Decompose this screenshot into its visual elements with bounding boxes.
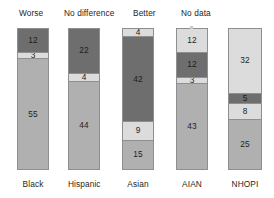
plot-area: 12355Black22444Hispanic442915Asian121234… bbox=[0, 0, 274, 198]
bar-group-hispanic: 22444Hispanic bbox=[68, 28, 100, 170]
stacked-bar[interactable]: 12355 bbox=[17, 28, 49, 170]
segment-value-label: 12 bbox=[28, 36, 37, 45]
stacked-bar-chart: WorseNo differenceBetterNo data 12355Bla… bbox=[0, 0, 274, 198]
bar-segment[interactable]: 4 bbox=[68, 73, 100, 81]
bar-group-aian: 1212343AIAN bbox=[176, 28, 208, 170]
bar-segment[interactable]: 9 bbox=[122, 121, 154, 139]
stacked-bar[interactable]: 1212343 bbox=[176, 28, 208, 170]
segment-value-label: 12 bbox=[187, 60, 196, 69]
segment-value-label: 42 bbox=[133, 75, 142, 84]
bar-segment[interactable]: 12 bbox=[176, 52, 208, 76]
category-label-aian: AIAN bbox=[176, 179, 208, 190]
bar-segment[interactable]: 12 bbox=[176, 28, 208, 52]
bar-segment[interactable]: 4 bbox=[122, 28, 154, 36]
bar-segment[interactable]: 43 bbox=[176, 83, 208, 170]
segment-value-label: 9 bbox=[136, 126, 141, 135]
segment-value-label: 32 bbox=[240, 56, 249, 65]
stacked-bar[interactable]: 325825 bbox=[228, 28, 262, 170]
bar-segment[interactable]: 44 bbox=[68, 81, 100, 170]
segment-value-label: 5 bbox=[243, 94, 248, 103]
bar-segment[interactable]: 42 bbox=[122, 36, 154, 121]
bar-segment[interactable]: 12 bbox=[17, 28, 49, 52]
bar-segment[interactable]: 5 bbox=[228, 93, 262, 103]
bar-group-black: 12355Black bbox=[17, 28, 49, 170]
bar-segment[interactable]: 25 bbox=[228, 119, 262, 170]
bar-segment[interactable]: 15 bbox=[122, 140, 154, 170]
category-label-nhopi: NHOPI bbox=[228, 179, 262, 190]
category-label-black: Black bbox=[17, 179, 49, 190]
segment-value-label: 55 bbox=[28, 110, 37, 119]
segment-value-label: 15 bbox=[133, 150, 142, 159]
bar-group-nhopi: 325825NHOPI bbox=[228, 28, 262, 170]
stacked-bar[interactable]: 442915 bbox=[122, 28, 154, 170]
bar-segment[interactable]: 32 bbox=[228, 28, 262, 93]
category-label-asian: Asian bbox=[122, 179, 154, 190]
stacked-bar[interactable]: 22444 bbox=[68, 28, 100, 170]
segment-value-label: 25 bbox=[240, 140, 249, 149]
segment-value-label: 43 bbox=[187, 122, 196, 131]
category-label-hispanic: Hispanic bbox=[68, 179, 100, 190]
bar-group-asian: 442915Asian bbox=[122, 28, 154, 170]
segment-value-label: 4 bbox=[136, 28, 141, 36]
segment-value-label: 4 bbox=[82, 73, 87, 81]
segment-value-label: 22 bbox=[79, 46, 88, 55]
segment-value-label: 44 bbox=[79, 121, 88, 130]
tick-marker bbox=[190, 26, 193, 29]
bar-segment[interactable]: 8 bbox=[228, 103, 262, 119]
bar-segment[interactable]: 55 bbox=[17, 58, 49, 170]
segment-value-label: 12 bbox=[187, 36, 196, 45]
segment-value-label: 8 bbox=[243, 107, 248, 116]
bar-segment[interactable]: 22 bbox=[68, 28, 100, 73]
